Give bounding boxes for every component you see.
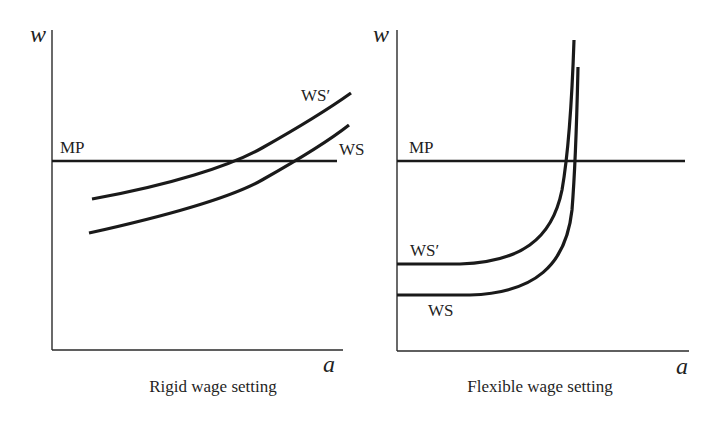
panel-caption: Flexible wage setting xyxy=(467,377,613,396)
ws-label: WS xyxy=(428,301,454,320)
x-axis-label: a xyxy=(323,351,335,377)
x-axis-label: a xyxy=(676,353,688,379)
y-axis-label: w xyxy=(373,21,389,47)
wage-setting-diagram: w a MP WS′ WS Rigid wage setting w a MP … xyxy=(0,0,716,421)
ws-label: WS xyxy=(339,140,365,159)
mp-label: MP xyxy=(60,138,85,157)
ws-prime-curve xyxy=(92,93,351,199)
panel-rigid: w a MP WS′ WS Rigid wage setting xyxy=(30,21,365,396)
panel-caption: Rigid wage setting xyxy=(149,377,277,396)
panel-flexible: w a MP WS′ WS Flexible wage setting xyxy=(373,21,689,396)
ws-prime-label: WS′ xyxy=(301,86,330,105)
ws-curve xyxy=(89,125,349,233)
y-axis-label: w xyxy=(30,21,46,47)
mp-label: MP xyxy=(409,138,434,157)
ws-prime-label: WS′ xyxy=(410,241,439,260)
